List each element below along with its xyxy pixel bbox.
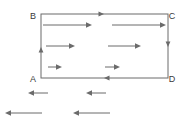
bottom-edge-arrowhead [104,76,110,81]
interior-arrow-row2-col2 [108,43,141,49]
interior-arrow-row3-col1-head [56,64,62,70]
circulation-diagram-svg: BCAD [0,0,186,125]
interior-arrow-row1-col2-head [160,22,166,28]
exterior-flow-arrows-group [5,90,110,116]
figure-canvas: BCAD [0,0,186,125]
exterior-arrow-lower-right-head [73,110,79,116]
interior-arrow-row2-col2-head [135,43,141,49]
interior-arrow-row2-col1-head [69,43,75,49]
exterior-arrow-lower-left-head [5,110,11,116]
exterior-arrow-upper-left [28,90,48,96]
exterior-arrow-upper-right-head [86,90,92,96]
interior-arrow-row1-col1-head [86,22,92,28]
right-edge-arrowhead [166,42,171,48]
interior-arrow-row1-col1 [43,22,92,28]
interior-arrow-row3-col1 [48,64,62,70]
corner-label-D: D [169,74,176,84]
interior-arrow-row1-col2 [112,22,166,28]
interior-arrow-row2-col1 [46,43,75,49]
left-edge-arrowhead [39,47,44,53]
interior-flow-arrows-group [43,22,166,70]
exterior-arrow-upper-right [86,90,106,96]
exterior-arrow-upper-left-head [28,90,34,96]
interior-arrow-row3-col2 [105,64,120,70]
exterior-arrow-lower-right [73,110,110,116]
interior-arrow-row3-col2-head [114,64,120,70]
corner-label-A: A [30,74,36,84]
corner-label-B: B [30,11,36,21]
exterior-arrow-lower-left [5,110,42,116]
corner-label-C: C [169,11,176,21]
top-edge-arrowhead [99,12,105,17]
corner-labels-group: BCAD [30,11,176,84]
